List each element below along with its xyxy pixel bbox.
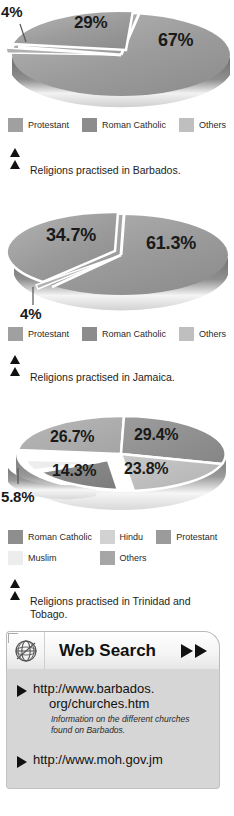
legend-label-protestant: Protestant xyxy=(176,532,217,542)
caption-jamaica: Religions practised in Jamaica. xyxy=(0,353,234,384)
chart-trinidad-and-tobago: 29.4% 26.7% 23.8% 14.3% 5.8% Roman Catho… xyxy=(0,398,234,621)
search-result-item[interactable]: http://www.moh.gov.jm xyxy=(17,752,209,768)
pie-label-jamaica-1: 34.7% xyxy=(46,225,96,246)
legend-label-others: Others xyxy=(199,120,226,130)
triangle-icon xyxy=(10,160,20,169)
caption-marker-jamaica xyxy=(10,355,22,379)
search-result-url-line1: http://www.barbados. xyxy=(33,681,154,696)
legend-swatch-others xyxy=(179,118,194,132)
bullet-arrow-icon xyxy=(17,756,27,768)
pie-chart-barbados: 67% 29% 4% xyxy=(0,0,234,118)
pie-label-trinidad-1: 26.7% xyxy=(50,428,94,446)
caption-text-jamaica: Religions practised in Jamaica. xyxy=(30,357,228,384)
legend-item-protestant: Protestant xyxy=(8,118,69,132)
caption-trinidad-and-tobago: Religions practised in Trinidad and Toba… xyxy=(0,577,234,621)
globe-icon xyxy=(7,632,45,670)
triangle-icon xyxy=(10,355,20,364)
legend-label-roman-catholic: Roman Catholic xyxy=(102,120,166,130)
search-result-url-line2: org/churches.htm xyxy=(33,696,154,711)
legend-swatch-roman-catholic xyxy=(8,530,23,544)
legend-item-others: Others xyxy=(100,551,226,565)
web-search-results: http://www.barbados. org/churches.htm In… xyxy=(6,669,220,789)
pie-label-barbados-2: 4% xyxy=(1,3,22,20)
web-search-header: Web Search xyxy=(6,631,220,669)
legend-item-protestant: Protestant xyxy=(156,530,226,544)
legend-label-others: Others xyxy=(120,553,147,563)
chart-barbados: 67% 29% 4% Protestant Roman Catholic Oth… xyxy=(0,0,234,177)
legend-swatch-hindu xyxy=(100,530,115,544)
caption-marker-trinidad xyxy=(10,579,22,603)
legend-item-protestant: Protestant xyxy=(8,327,69,341)
pie-label-trinidad-3: 14.3% xyxy=(52,462,96,480)
search-result-url[interactable]: http://www.barbados. org/churches.htm xyxy=(33,681,154,711)
triangle-icon xyxy=(10,579,20,588)
globe-icon-svg xyxy=(13,638,39,664)
legend-item-roman-catholic: Roman Catholic xyxy=(8,530,100,544)
legend-swatch-protestant xyxy=(156,530,171,544)
caption-marker-barbados xyxy=(10,148,22,172)
caption-text-barbados: Religions practised in Barbados. xyxy=(30,150,228,177)
legend-item-others: Others xyxy=(179,118,226,132)
legend-swatch-protestant xyxy=(8,118,23,132)
legend-label-protestant: Protestant xyxy=(28,120,69,130)
triangle-icon xyxy=(10,148,20,157)
legend-barbados: Protestant Roman Catholic Others xyxy=(0,118,234,132)
pie-svg-jamaica xyxy=(0,195,234,323)
pie-label-jamaica-2: 4% xyxy=(20,305,41,322)
legend-item-hindu: Hindu xyxy=(100,530,157,544)
pie-label-trinidad-0: 29.4% xyxy=(134,426,178,444)
pie-label-barbados-1: 29% xyxy=(74,13,107,33)
pie-chart-trinidad-and-tobago: 29.4% 26.7% 23.8% 14.3% 5.8% xyxy=(0,398,234,526)
legend-trinidad-and-tobago: Roman Catholic Hindu Protestant Muslim O… xyxy=(0,530,234,567)
legend-swatch-others xyxy=(179,327,194,341)
legend-swatch-protestant xyxy=(8,327,23,341)
web-search-panel: Web Search http://www.barbados. org/chur… xyxy=(6,631,220,789)
bullet-arrow-icon xyxy=(17,685,27,697)
legend-swatch-roman-catholic xyxy=(82,118,97,132)
caption-text-trinidad-and-tobago: Religions practised in Trinidad and Toba… xyxy=(30,581,228,621)
legend-label-hindu: Hindu xyxy=(120,532,144,542)
pie-label-barbados-0: 67% xyxy=(158,30,193,51)
page-root: 67% 29% 4% Protestant Roman Catholic Oth… xyxy=(0,0,234,816)
legend-label-muslim: Muslim xyxy=(28,553,57,563)
legend-swatch-roman-catholic xyxy=(82,327,97,341)
triangle-icon xyxy=(10,367,20,376)
legend-item-muslim: Muslim xyxy=(8,551,100,565)
legend-item-others: Others xyxy=(179,327,226,341)
double-arrow-right-icon[interactable] xyxy=(181,644,219,658)
pie-label-jamaica-0: 61.3% xyxy=(146,233,196,254)
search-result-description: Information on the different churches fo… xyxy=(51,714,209,736)
triangle-icon xyxy=(10,591,20,600)
search-result-url-line1: http://www.moh.gov.jm xyxy=(33,752,163,767)
search-result-item[interactable]: http://www.barbados. org/churches.htm In… xyxy=(17,681,209,736)
arrow-right-icon xyxy=(181,644,193,658)
chart-jamaica: 61.3% 34.7% 4% Protestant Roman Catholic… xyxy=(0,195,234,384)
pie-svg-trinidad xyxy=(0,398,234,526)
pie-label-trinidad-2: 23.8% xyxy=(124,460,168,478)
web-search-title: Web Search xyxy=(45,641,181,661)
caption-barbados: Religions practised in Barbados. xyxy=(0,146,234,177)
legend-jamaica: Protestant Roman Catholic Others xyxy=(0,327,234,341)
pie-svg-barbados xyxy=(0,0,234,118)
pie-chart-jamaica: 61.3% 34.7% 4% xyxy=(0,195,234,323)
legend-swatch-muslim xyxy=(8,551,23,565)
legend-label-protestant: Protestant xyxy=(28,329,69,339)
legend-item-roman-catholic: Roman Catholic xyxy=(82,327,166,341)
legend-label-roman-catholic: Roman Catholic xyxy=(28,532,92,542)
legend-label-roman-catholic: Roman Catholic xyxy=(102,329,166,339)
pie-label-trinidad-4: 5.8% xyxy=(1,488,34,505)
search-result-url[interactable]: http://www.moh.gov.jm xyxy=(33,752,163,767)
arrow-right-icon xyxy=(195,644,207,658)
legend-item-roman-catholic: Roman Catholic xyxy=(82,118,166,132)
legend-swatch-others xyxy=(100,551,115,565)
legend-label-others: Others xyxy=(199,329,226,339)
